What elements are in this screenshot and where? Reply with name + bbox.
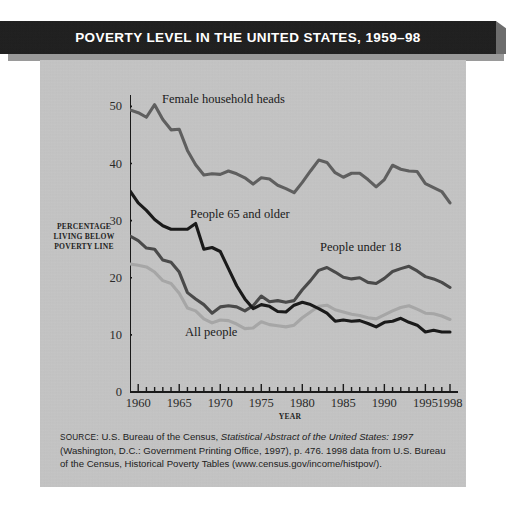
source-note: SOURCE: U.S. Bureau of the Census, Stati… [60, 430, 452, 471]
chart-lines [130, 95, 460, 400]
poverty-chart-figure: POVERTY LEVEL IN THE UNITED STATES, 1959… [0, 0, 512, 518]
y-tick-label-10: 10 [96, 327, 122, 342]
series-line-female-household-heads [130, 105, 450, 203]
source-italic-title: Statistical Abstract of the United State… [221, 431, 413, 442]
series-label-female: Female household heads [162, 92, 285, 107]
source-prefix: SOURCE: [60, 433, 99, 442]
series-label-elderly: People 65 and older [190, 207, 290, 222]
series-label-all: All people [185, 325, 237, 340]
title-bar: POVERTY LEVEL IN THE UNITED STATES, 1959… [0, 21, 496, 54]
series-label-children: People under 18 [320, 240, 401, 255]
y-tick-label-40: 40 [96, 156, 122, 171]
page-title: POVERTY LEVEL IN THE UNITED STATES, 1959… [75, 30, 421, 45]
source-part-1: U.S. Bureau of the Census, [99, 431, 221, 442]
y-tick-label-20: 20 [96, 270, 122, 285]
y-tick-label-30: 30 [96, 213, 122, 228]
x-axis-label: YEAR [130, 412, 450, 421]
plot-area [130, 95, 450, 392]
series-line-people-65-and-older [130, 191, 450, 332]
y-axis-tick-labels: 01020304050 [94, 95, 122, 392]
series-line-people-under-18 [130, 236, 450, 313]
y-tick-label-0: 0 [96, 385, 122, 400]
y-tick-label-50: 50 [96, 99, 122, 114]
source-part-2: (Washington, D.C.: Government Printing O… [60, 445, 446, 469]
